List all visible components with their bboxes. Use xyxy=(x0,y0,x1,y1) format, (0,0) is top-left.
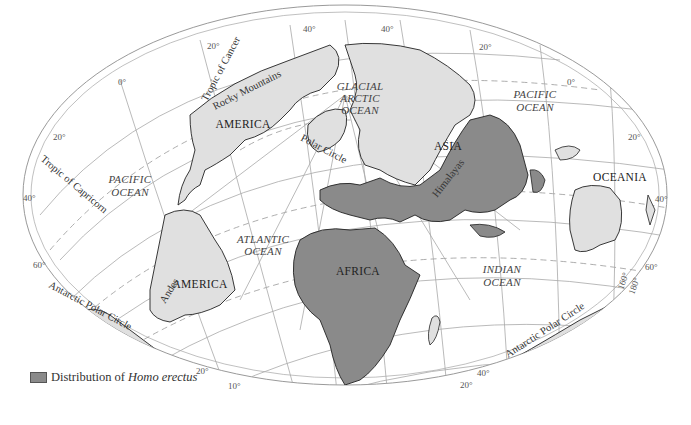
degree-label: 10° xyxy=(228,381,241,391)
legend-label: Distribution of Homo erectus xyxy=(51,370,197,385)
degree-label: 20° xyxy=(628,132,641,142)
map-legend: Distribution of Homo erectus xyxy=(30,370,197,385)
degree-label: 0° xyxy=(567,77,576,87)
degree-label: 0° xyxy=(118,77,127,87)
degree-label: 60° xyxy=(645,262,658,272)
indian-ocean-label-2: OCEAN xyxy=(483,276,521,288)
arctic-ocean-label-3: OCEAN xyxy=(341,104,379,116)
north-america-label: AMERICA xyxy=(215,118,271,130)
legend-prefix: Distribution of xyxy=(51,370,128,384)
antarctic-polar-circle-east-label: Antarctic Polar Circle xyxy=(503,300,587,360)
landmass-south-america xyxy=(150,210,235,322)
arctic-ocean-label-2: ARCTIC xyxy=(339,92,380,104)
arctic-ocean-label: GLACIAL xyxy=(337,80,384,92)
degree-label: 40° xyxy=(23,193,36,203)
degree-label: 40° xyxy=(655,194,668,204)
degree-label: 20° xyxy=(460,380,473,390)
degree-label: 20° xyxy=(479,42,492,52)
tropic-of-capricorn-label: Tropic of Capricorn xyxy=(39,153,111,216)
atlantic-ocean-label-2: OCEAN xyxy=(244,245,282,257)
degree-label: 20° xyxy=(196,366,209,376)
homo-erectus-swatch xyxy=(30,372,47,383)
degree-label: 40° xyxy=(381,24,394,34)
atlantic-ocean-label: ATLANTIC xyxy=(236,233,289,245)
asia-label: ASIA xyxy=(434,140,462,152)
landmass-australia xyxy=(570,185,622,251)
indian-ocean-label: INDIAN xyxy=(482,263,522,275)
landmass-new-guinea xyxy=(555,146,580,160)
landmass-new-zealand xyxy=(646,195,655,225)
pacific-ocean-east-label-2: OCEAN xyxy=(516,101,554,113)
africa-label: AFRICA xyxy=(336,265,380,277)
degree-label: 60° xyxy=(33,260,46,270)
pacific-ocean-east-label: PACIFIC xyxy=(513,88,557,100)
world-map: GLACIAL ARCTIC OCEAN PACIFIC OCEAN PACIF… xyxy=(0,0,691,425)
oceania-label: OCEANIA xyxy=(593,171,647,183)
legend-species: Homo erectus xyxy=(128,370,197,384)
landmass-madagascar xyxy=(428,316,440,345)
degree-label: 40° xyxy=(303,24,316,34)
pacific-ocean-west-label-2: OCEAN xyxy=(111,186,149,198)
south-america-label: AMERICA xyxy=(172,278,228,290)
degree-label: 40° xyxy=(477,368,490,378)
pacific-ocean-west-label: PACIFIC xyxy=(108,173,152,185)
landmass-antarctica-east xyxy=(483,300,626,388)
degree-label: 20° xyxy=(53,132,66,142)
homo-erectus-range-africa xyxy=(293,228,420,385)
degree-label: 20° xyxy=(207,41,220,51)
